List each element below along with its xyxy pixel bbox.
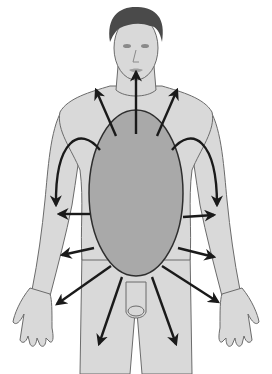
- left-hand: [13, 288, 53, 346]
- central-oval: [89, 110, 183, 276]
- diagram-figure: [0, 0, 272, 374]
- body-illustration: [0, 0, 272, 374]
- right-hand: [219, 288, 259, 346]
